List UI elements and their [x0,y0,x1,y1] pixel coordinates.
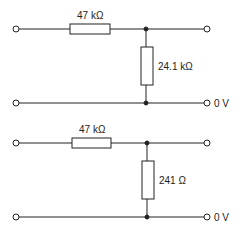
series-resistor [72,138,111,148]
shunt-resistor [141,47,153,85]
input-ground-terminal [13,214,19,220]
junction-dot [144,101,148,105]
input-terminal [13,26,19,32]
junction-dot [145,141,149,145]
output-terminal [204,26,210,32]
junction-dot [145,215,149,219]
output-ground-terminal [204,100,210,106]
output-ground-terminal [204,214,210,220]
series-resistor [70,24,110,34]
input-terminal [13,140,19,146]
input-ground-terminal [13,100,19,106]
circuit-diagram: 47 kΩ 24.1 kΩ 0 V 47 kΩ 241 Ω 0 V [0,0,245,228]
ground-label: 0 V [214,98,229,109]
ground-label: 0 V [214,212,229,223]
shunt-resistor [142,161,154,199]
series-resistor-label: 47 kΩ [79,124,106,135]
shunt-resistor-label: 24.1 kΩ [158,61,193,72]
junction-dot [144,27,148,31]
output-terminal [204,140,210,146]
series-resistor-label: 47 kΩ [77,10,104,21]
shunt-resistor-label: 241 Ω [159,175,186,186]
